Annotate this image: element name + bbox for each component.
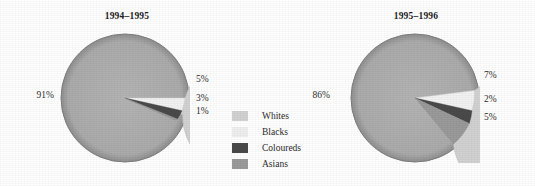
legend-item-whites: Whites xyxy=(232,108,308,124)
pie-chart-1995-1996-svg xyxy=(350,33,480,163)
legend-swatch-coloureds xyxy=(232,143,248,153)
legend-item-coloureds: Coloureds xyxy=(232,140,308,156)
legend-label-coloureds: Coloureds xyxy=(262,143,301,153)
pie-label-asians-1994-1995: 1% xyxy=(196,106,209,116)
pie-chart-1994-1995 xyxy=(60,33,190,163)
legend-swatch-blacks xyxy=(232,127,248,137)
pie-label-whites-1995-1996: 86% xyxy=(300,90,330,100)
legend-item-blacks: Blacks xyxy=(232,124,308,140)
pie-chart-1994-1995-svg xyxy=(60,33,190,163)
legend-swatch-whites xyxy=(232,111,248,121)
chart-title-1995-1996: 1995–1996 xyxy=(366,11,466,21)
pie-label-blacks-1994-1995: 5% xyxy=(196,74,209,84)
pie-label-whites-1994-1995: 91% xyxy=(24,90,54,100)
pie-chart-1995-1996 xyxy=(350,33,480,163)
population-group-legend: Whites Blacks Coloureds Asians xyxy=(232,108,308,172)
pie-label-asians-1995-1996: 5% xyxy=(484,112,497,122)
legend-label-whites: Whites xyxy=(262,111,289,121)
pie-label-coloureds-1994-1995: 3% xyxy=(196,93,209,103)
two-pie-chart-figure: 1994–1995 91% 5% 3% 1% xyxy=(0,0,535,186)
pie-label-blacks-1995-1996: 7% xyxy=(484,70,497,80)
legend-swatch-asians xyxy=(232,159,248,169)
pie-label-coloureds-1995-1996: 2% xyxy=(484,94,497,104)
legend-label-blacks: Blacks xyxy=(262,127,288,137)
legend-label-asians: Asians xyxy=(262,159,288,169)
legend-item-asians: Asians xyxy=(232,156,308,172)
chart-title-1994-1995: 1994–1995 xyxy=(77,11,177,21)
